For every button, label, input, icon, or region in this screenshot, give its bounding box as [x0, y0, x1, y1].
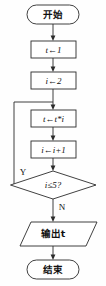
- flowchart-graphics: [0, 0, 106, 286]
- arrowhead-end: [51, 254, 56, 260]
- arrowhead-incr: [51, 135, 56, 141]
- node-decision-shape[interactable]: [11, 171, 97, 199]
- arrowhead-mul: [51, 104, 56, 110]
- arrowhead-output: [51, 216, 56, 222]
- arrowhead-init-i: [51, 66, 56, 72]
- node-start-shape[interactable]: [27, 5, 79, 24]
- node-mul-shape[interactable]: [31, 110, 76, 127]
- arrowhead-init-t: [51, 35, 56, 41]
- arrowhead-decision: [51, 165, 56, 171]
- node-init-t-shape[interactable]: [31, 41, 76, 58]
- flowchart-canvas: 开始 t←1 i←2 t←t*i i←i+1 i≤5? Y N 输出t 结束: [0, 0, 106, 286]
- node-output-shape[interactable]: [20, 222, 97, 246]
- node-end-shape[interactable]: [27, 260, 79, 279]
- node-init-i-shape[interactable]: [31, 72, 76, 89]
- node-incr-shape[interactable]: [31, 141, 76, 158]
